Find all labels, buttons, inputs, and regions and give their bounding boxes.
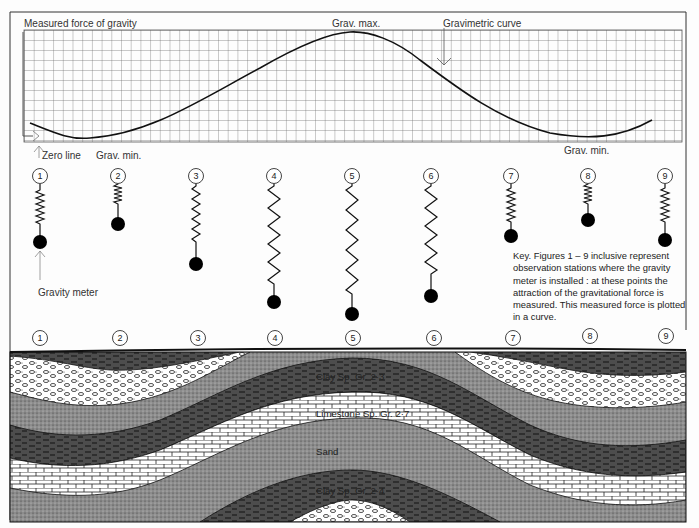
key-text: Key. Figures 1 – 9 inclusive represent o…	[513, 250, 693, 324]
surface-station-8: 8	[582, 328, 598, 344]
surface-station-5: 5	[345, 330, 361, 346]
grav-max-label: Grav. max.	[332, 19, 380, 29]
surface-station-1: 1	[32, 330, 48, 346]
graph-grid	[24, 30, 682, 142]
clay-upper-label: Clay Sp. Gr. 2·3	[316, 371, 384, 382]
surface-station-7: 7	[505, 330, 521, 346]
limestone-label: Limestone Sp. Gr. 2·7	[316, 408, 409, 419]
meter-station-1: 1	[32, 168, 48, 184]
zero-line-label: Zero line	[42, 151, 81, 161]
surface-station-3: 3	[190, 330, 206, 346]
surface-station-4: 4	[267, 330, 283, 346]
sand-label: Sand	[316, 446, 338, 457]
grav-min-label-right: Grav. min.	[564, 146, 609, 156]
clay-lower-label: Clay Sp. Gr. 2·4	[316, 485, 384, 496]
surface-station-9: 9	[658, 328, 674, 344]
meter-station-9: 9	[657, 168, 673, 184]
surface-station-6: 6	[426, 330, 442, 346]
gravity-survey-diagram: Measured force of gravity Grav. max. Gra…	[0, 0, 699, 528]
meter-station-6: 6	[423, 168, 439, 184]
meter-station-5: 5	[344, 168, 360, 184]
meter-station-4: 4	[266, 168, 282, 184]
gravimetric-curve-label: Gravimetric curve	[443, 19, 521, 29]
grav-min-label-left: Grav. min.	[96, 151, 141, 161]
meter-station-7: 7	[503, 168, 519, 184]
surface-station-2: 2	[112, 330, 128, 346]
meter-station-2: 2	[110, 168, 126, 184]
graph-y-label: Measured force of gravity	[24, 19, 137, 29]
meter-station-8: 8	[580, 168, 596, 184]
meter-station-3: 3	[188, 168, 204, 184]
gravity-meter-label: Gravity meter	[38, 288, 98, 298]
